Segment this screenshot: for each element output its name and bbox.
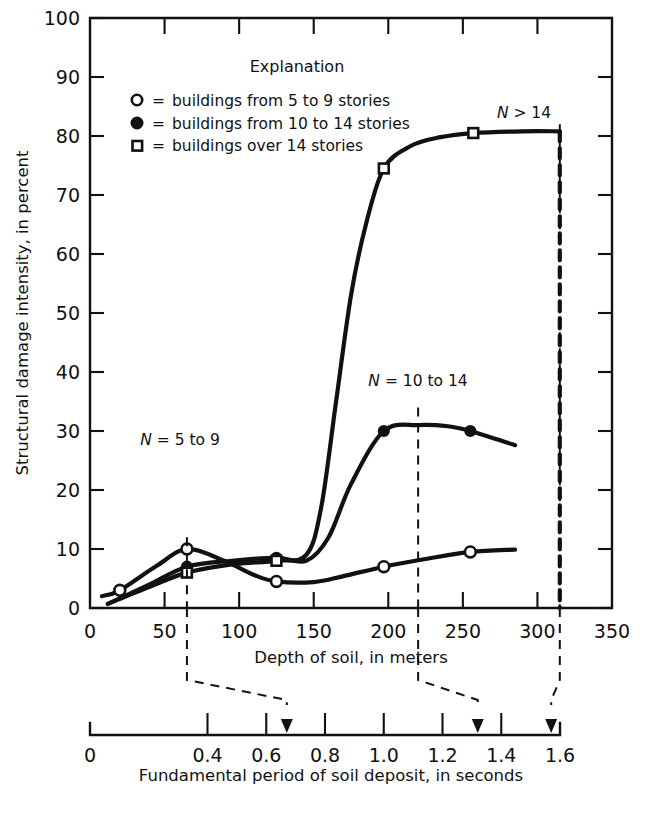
annotation-n-5-to-9: N = 5 to 9 xyxy=(140,431,220,449)
y-axis-title: Structural damage intensity, in percent xyxy=(13,150,32,476)
data-point-open-square xyxy=(468,128,478,138)
data-point-filled-circle xyxy=(465,426,475,436)
data-point-open-circle xyxy=(465,547,476,558)
secondary-tick-label: 0 xyxy=(84,744,96,766)
y-tick-label: 30 xyxy=(56,420,80,442)
legend-label-10-to-14: buildings from 10 to 14 stories xyxy=(172,115,410,133)
legend-label-over-14: buildings over 14 stories xyxy=(172,137,363,155)
legend-label-5-to-9: buildings from 5 to 9 stories xyxy=(172,92,390,110)
y-tick-label: 100 xyxy=(44,7,80,29)
legend-equals: = xyxy=(152,115,165,133)
y-tick-label: 80 xyxy=(56,125,80,147)
data-point-filled-circle xyxy=(379,426,389,436)
legend-title: Explanation xyxy=(250,57,345,76)
x-tick-label: 250 xyxy=(445,620,481,642)
open-circle-icon xyxy=(132,95,142,105)
y-tick-label: 20 xyxy=(56,479,80,501)
secondary-tick-label: 1.4 xyxy=(486,744,516,766)
y-tick-label: 70 xyxy=(56,184,80,206)
secondary-tick-label: 0.6 xyxy=(251,744,281,766)
x-tick-label: 350 xyxy=(594,620,630,642)
x-tick-label: 100 xyxy=(221,620,257,642)
y-tick-label: 40 xyxy=(56,361,80,383)
y-tick-label: 90 xyxy=(56,66,80,88)
secondary-axis-title: Fundamental period of soil deposit, in s… xyxy=(139,766,523,785)
legend-item-10-to-14: = buildings from 10 to 14 stories xyxy=(132,115,410,133)
y-tick-label: 10 xyxy=(56,538,80,560)
data-point-open-circle xyxy=(114,585,125,596)
annotation-n-10-to-14: N = 10 to 14 xyxy=(368,372,467,390)
annotation-n-over-14: N > 14 xyxy=(497,104,551,122)
secondary-tick-label: 0.8 xyxy=(310,744,340,766)
x-tick-label: 300 xyxy=(519,620,555,642)
y-tick-label: 60 xyxy=(56,243,80,265)
filled-circle-icon xyxy=(132,118,143,129)
secondary-tick-label: 1.6 xyxy=(545,744,575,766)
damage-intensity-chart: 0102030405060708090100 Structural damage… xyxy=(0,0,663,816)
data-point-open-square xyxy=(272,556,282,566)
secondary-tick-label: 1.0 xyxy=(369,744,399,766)
x-tick-label: 0 xyxy=(84,620,96,642)
x-tick-label: 50 xyxy=(152,620,176,642)
legend-equals: = xyxy=(152,137,165,155)
y-tick-label: 50 xyxy=(56,302,80,324)
legend-equals: = xyxy=(152,92,165,110)
data-point-open-circle xyxy=(378,561,389,572)
secondary-tick-label: 1.2 xyxy=(427,744,457,766)
y-tick-label: 0 xyxy=(68,597,80,619)
x-tick-label: 200 xyxy=(370,620,406,642)
data-point-open-square xyxy=(379,164,389,174)
secondary-tick-label: 0.4 xyxy=(192,744,222,766)
open-square-icon xyxy=(133,141,143,151)
x-tick-label: 150 xyxy=(296,620,332,642)
data-point-open-circle xyxy=(271,576,282,587)
figure-container: 0102030405060708090100 Structural damage… xyxy=(0,0,663,816)
